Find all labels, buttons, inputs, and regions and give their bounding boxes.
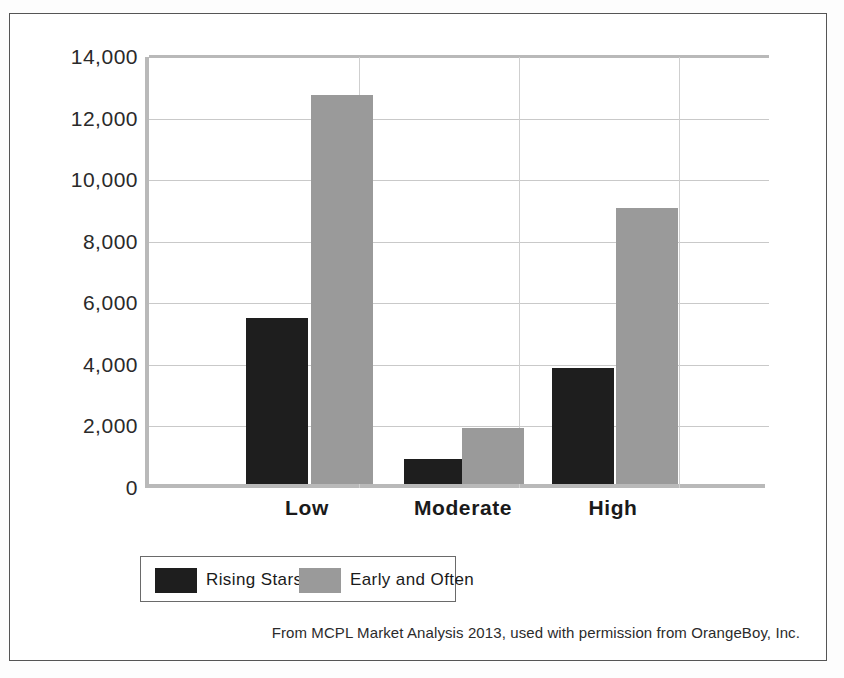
bar-low-early-and-often [311, 95, 373, 484]
y-tick-label-10000: 10,000 [20, 168, 138, 192]
figure-caption: From MCPL Market Analysis 2013, used wit… [200, 624, 800, 641]
gridline-14000 [149, 55, 769, 58]
y-axis-tick-labels: 02,0004,0006,0008,00010,00012,00014,000 [8, 57, 138, 488]
chart-legend: Rising Stars Early and Often [140, 556, 456, 602]
y-tick-label-14000: 14,000 [20, 45, 138, 69]
y-tick-label-8000: 8,000 [20, 230, 138, 254]
y-tick-label-12000: 12,000 [20, 107, 138, 131]
vertical-gridline-1 [519, 57, 520, 488]
legend-swatch-rising-stars [155, 568, 197, 593]
y-tick-label-6000: 6,000 [20, 291, 138, 315]
x-tick-label-moderate: Moderate [383, 496, 543, 520]
legend-label-rising-stars: Rising Stars [206, 570, 302, 590]
legend-label-early-and-often: Early and Often [350, 570, 474, 590]
bar-low-rising-stars [246, 318, 308, 484]
y-tick-label-2000: 2,000 [20, 414, 138, 438]
y-tick-label-4000: 4,000 [20, 353, 138, 377]
gridline-12000 [149, 119, 769, 120]
bar-moderate-rising-stars [404, 459, 466, 484]
legend-entry-rising-stars: Rising Stars [155, 567, 302, 593]
x-tick-label-high: High [533, 496, 693, 520]
bar-high-early-and-often [616, 208, 678, 484]
x-axis-category-labels: LowModerateHigh [145, 496, 765, 530]
legend-swatch-early-and-often [299, 568, 341, 593]
scanned-page: 02,0004,0006,0008,00010,00012,00014,000 … [0, 0, 844, 678]
bar-high-rising-stars [552, 368, 614, 484]
x-tick-label-low: Low [227, 496, 387, 520]
bar-moderate-early-and-often [462, 428, 524, 484]
y-tick-label-0: 0 [20, 476, 138, 500]
vertical-gridline-2 [679, 57, 680, 488]
bar-chart-figure: 02,0004,0006,0008,00010,00012,00014,000 … [0, 0, 844, 678]
legend-entry-early-and-often: Early and Often [299, 567, 474, 593]
gridline-10000 [149, 180, 769, 181]
plot-area [145, 57, 765, 488]
